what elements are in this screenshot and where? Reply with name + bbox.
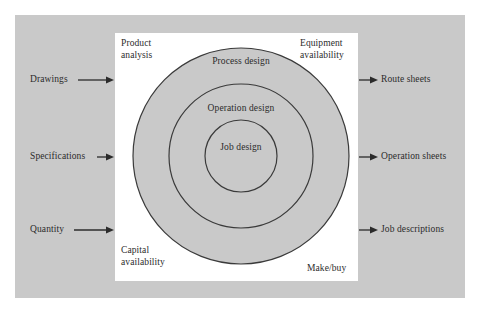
corner-label-make-buy: Make/buy: [307, 263, 346, 275]
output-label-job-descriptions: Job descriptions: [381, 224, 444, 236]
diagram-white-panel: [115, 33, 358, 281]
ring-label-operation-design: Operation design: [208, 103, 275, 115]
figure-root: Process design Operation design Job desi…: [0, 0, 480, 312]
corner-label-equipment-availability: Equipment availability: [300, 38, 344, 61]
ring-label-job-design: Job design: [220, 142, 261, 154]
corner-label-product-analysis: Product analysis: [121, 38, 152, 61]
input-label-quantity: Quantity: [30, 224, 64, 236]
ring-label-process-design: Process design: [212, 56, 270, 68]
corner-label-capital-availability: Capital availability: [121, 245, 165, 268]
output-label-operation-sheets: Operation sheets: [381, 151, 446, 163]
input-label-specifications: Specifications: [30, 151, 85, 163]
output-label-route-sheets: Route sheets: [381, 74, 430, 86]
input-label-drawings: Drawings: [30, 74, 68, 86]
